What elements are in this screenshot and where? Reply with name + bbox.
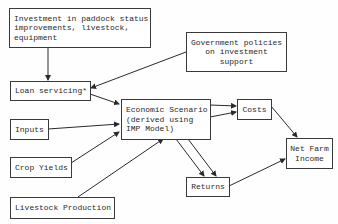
node-government-policies: Government policies on investment suppor… [186,32,287,72]
arrow-costs-to-netfarm [271,106,297,137]
arrow-crop-to-economic [71,132,119,163]
node-costs: Costs [237,99,272,120]
node-government-policies-label: Government policies on investment suppor… [191,38,282,67]
node-investment: Investment in paddock status improvement… [9,8,151,48]
arrow-economic-to-returns-1 [176,139,204,176]
node-loan-servicing-label: Loan servicing* [15,86,87,96]
node-costs-label: Costs [242,105,266,115]
node-net-farm-income-label: Net Farm Income [290,144,328,163]
arrow-economic-to-costs-2 [210,112,236,117]
arrow-livestock-to-economic [78,139,163,197]
node-inputs-label: Inputs [15,125,44,135]
arrow-economic-to-returns-2 [188,139,216,176]
flow-diagram: Investment in paddock status improvement… [0,0,338,224]
node-livestock-production-label: Livestock Production [15,203,111,213]
node-returns: Returns [186,177,230,197]
node-livestock-production: Livestock Production [10,197,115,219]
node-investment-label: Investment in paddock status improvement… [14,14,148,43]
arrow-economic-to-costs-1 [210,105,236,106]
node-net-farm-income: Net Farm Income [286,138,333,169]
node-crop-yields: Crop Yields [10,157,72,178]
arrow-loan-to-economic [90,94,119,104]
arrow-returns-to-netfarm [229,159,285,186]
node-loan-servicing: Loan servicing* [10,81,91,101]
node-economic-scenario-label: Economic Scenario (derived using IMP Mod… [126,105,208,134]
node-returns-label: Returns [191,182,225,192]
arrow-inputs-to-economic [48,124,119,129]
node-economic-scenario: Economic Scenario (derived using IMP Mod… [121,99,211,140]
node-crop-yields-label: Crop Yields [15,163,68,173]
arrow-government-to-loan [91,52,186,88]
node-inputs: Inputs [10,119,49,140]
